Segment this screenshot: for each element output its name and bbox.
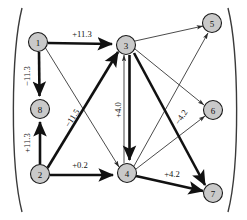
node-3-label: 3 [124, 41, 129, 51]
left-bracket-icon [13, 8, 22, 212]
node-2[interactable]: 2 [31, 165, 50, 184]
edge-label-3-7: −4.2 [172, 108, 189, 127]
edge-label-4-7: +4.2 [164, 169, 180, 179]
edge-3-6 [135, 49, 204, 105]
edge-label-1-8: −11.3 [22, 66, 32, 86]
edge-1-8 [39, 52, 40, 96]
figure-canvas: +11.3 −11.3 +11.3 −11.5 +0.2 +4.0 −4.2 +… [0, 0, 247, 220]
node-5[interactable]: 5 [203, 14, 222, 33]
edge-3-5 [135, 26, 203, 41]
node-5-label: 5 [210, 19, 215, 29]
edge-4-6 [136, 116, 205, 169]
node-1[interactable]: 1 [29, 33, 48, 52]
edge-1-4 [46, 48, 120, 167]
node-7-label: 7 [211, 189, 216, 199]
edge-label-4-3: +4.0 [113, 102, 123, 118]
node-6-label: 6 [211, 106, 216, 116]
node-4[interactable]: 4 [118, 164, 137, 183]
edge-label-2-8: +11.3 [22, 133, 32, 153]
edge-label-1-3: +11.3 [72, 29, 92, 39]
node-8-label: 8 [38, 105, 43, 115]
node-4-label: 4 [125, 169, 130, 179]
edge-2-3 [48, 52, 119, 168]
node-7[interactable]: 7 [204, 184, 223, 203]
node-3[interactable]: 3 [117, 36, 136, 55]
edge-label-2-4: +0.2 [72, 160, 88, 170]
edge-1-3 [48, 43, 112, 44]
right-bracket-icon [228, 8, 237, 212]
node-8[interactable]: 8 [31, 100, 50, 119]
edge-3-7 [134, 53, 205, 185]
node-2-label: 2 [38, 170, 43, 180]
node-1-label: 1 [36, 38, 41, 48]
node-6[interactable]: 6 [204, 101, 223, 120]
graph-svg: +11.3 −11.3 +11.3 −11.5 +0.2 +4.0 −4.2 +… [0, 0, 247, 220]
